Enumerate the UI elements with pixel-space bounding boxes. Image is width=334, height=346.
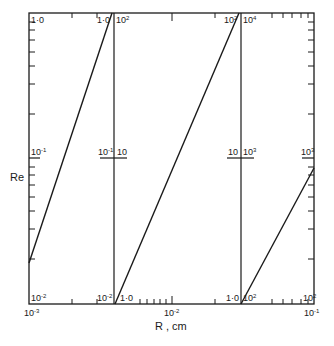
left-axis-ticks [29, 22, 35, 259]
right-axis-ticks [308, 22, 314, 259]
p2-top-label: 102 [116, 15, 130, 25]
reynolds-number-chart: 1·0 10-1 10-2 1·0 10-1 10-2 102 10 1·0 1… [0, 0, 334, 346]
p1-top-label: 1·0 [31, 15, 44, 25]
x-tick-label-0: 10-3 [24, 308, 40, 318]
p1-right-mid-label: 10-1 [98, 147, 114, 157]
series-line-panel-3 [241, 168, 314, 304]
series-line-panel-1 [29, 13, 112, 263]
y-axis-title: Re [10, 171, 24, 183]
p1-bottom-label: 10-2 [31, 293, 47, 303]
x-tick-label-2: 10-1 [304, 308, 320, 318]
p2-mid-label: 10 [117, 147, 127, 157]
p3-bottom-label: 102 [243, 293, 257, 303]
series-line-panel-2 [115, 13, 239, 304]
p3-right-bottom-label: 102 [303, 293, 317, 303]
p1-mid-label: 10-1 [31, 147, 47, 157]
p2-right-mid-label: 10 [228, 147, 238, 157]
plot-frame [29, 13, 314, 304]
p2-right-bottom-label: 1·0 [226, 293, 239, 303]
p3-right-mid-label: 103 [301, 147, 315, 157]
x-axis-title: R , cm [155, 320, 187, 332]
p1-right-top-label: 1·0 [97, 15, 110, 25]
p3-top-label: 104 [243, 15, 257, 25]
p3-mid-label: 103 [243, 147, 257, 157]
x-tick-label-1: 10-2 [164, 308, 180, 318]
p2-right-top-label: 102 [224, 15, 238, 25]
p1-right-bottom-label: 10-2 [97, 293, 113, 303]
p2-bottom-label: 1·0 [120, 293, 133, 303]
